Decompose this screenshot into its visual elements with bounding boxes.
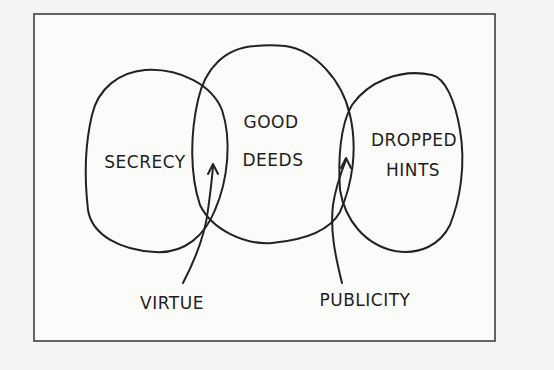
virtue-label: VIRTUE (140, 293, 204, 313)
venn-diagram: SECRECY GOOD DEEDS DROPPED HINTS VIRTUE … (0, 0, 554, 370)
publicity-label: PUBLICITY (320, 290, 411, 310)
dropped-hints-label-line2: HINTS (386, 160, 440, 180)
dropped-hints-label-line1: DROPPED (371, 130, 457, 150)
good-deeds-label-line2: DEEDS (243, 150, 304, 170)
comic-canvas: SECRECY GOOD DEEDS DROPPED HINTS VIRTUE … (0, 0, 554, 370)
good-deeds-label-line1: GOOD (243, 112, 298, 132)
secrecy-label: SECRECY (104, 152, 186, 172)
